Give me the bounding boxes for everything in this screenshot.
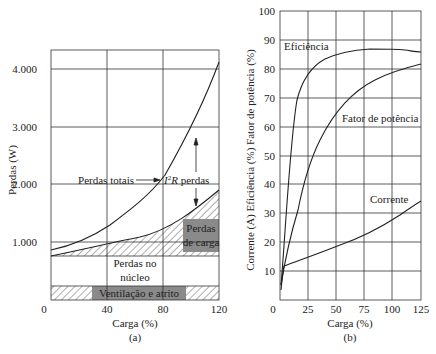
a-ylabel: Perdas (W) bbox=[6, 145, 19, 195]
core-loss-label-1: Perdas no bbox=[113, 257, 157, 269]
a-ytick-3000: 3.000 bbox=[12, 121, 37, 133]
a-xtick-80: 80 bbox=[158, 303, 170, 315]
b-ytick-70: 70 bbox=[264, 92, 276, 104]
total-loss-label: Perdas totais bbox=[78, 174, 134, 186]
a-ytick-4000: 4.000 bbox=[12, 63, 37, 75]
current-curve bbox=[281, 201, 421, 290]
b-ytick-80: 80 bbox=[264, 63, 276, 75]
b-ylabel: Corrente (A) Eficiência (%) Fator de pot… bbox=[244, 49, 257, 271]
current-label: Corrente bbox=[370, 193, 409, 205]
b-panel-label: (b) bbox=[344, 331, 357, 344]
b-ytick-20: 20 bbox=[264, 236, 276, 248]
b-xtick-100: 100 bbox=[384, 303, 401, 315]
i2r-suffix: perdas bbox=[178, 174, 209, 186]
core-loss-label-2: núcleo bbox=[120, 271, 150, 283]
a-xtick-0: 0 bbox=[41, 303, 47, 315]
power-factor-curve bbox=[281, 64, 421, 285]
load-loss-label-1: Perdas bbox=[186, 222, 215, 234]
b-ytick-50: 50 bbox=[264, 150, 276, 162]
b-xtick-25: 25 bbox=[303, 303, 315, 315]
b-xlabel: Carga (%) bbox=[327, 317, 373, 330]
efficiency-curve bbox=[281, 49, 421, 285]
b-ytick-60: 60 bbox=[264, 121, 276, 133]
a-ytick-1000: 1.000 bbox=[12, 236, 37, 248]
chart-b: 100 90 80 70 60 50 40 30 20 10 0 25 50 7… bbox=[244, 5, 430, 344]
a-xtick-120: 120 bbox=[211, 303, 228, 315]
b-ytick-90: 90 bbox=[264, 34, 276, 46]
b-xtick-75: 75 bbox=[359, 303, 371, 315]
b-xtick-125: 125 bbox=[413, 303, 430, 315]
b-xtick-0: 0 bbox=[270, 303, 276, 315]
a-xlabel: Carga (%) bbox=[112, 317, 158, 330]
b-ytick-10: 10 bbox=[264, 265, 276, 277]
b-ytick-40: 40 bbox=[264, 178, 276, 190]
b-ytick-100: 100 bbox=[259, 5, 276, 17]
b-ytick-30: 30 bbox=[264, 207, 276, 219]
b-xtick-50: 50 bbox=[331, 303, 343, 315]
a-xtick-40: 40 bbox=[102, 303, 114, 315]
chart-a: 4.000 3.000 2.000 1.000 0 40 80 120 Carg… bbox=[6, 50, 228, 344]
figure: 4.000 3.000 2.000 1.000 0 40 80 120 Carg… bbox=[0, 0, 436, 354]
grid-b bbox=[280, 11, 421, 300]
efficiency-label: Eficiência bbox=[284, 40, 329, 52]
load-loss-label-2: de carga bbox=[183, 236, 220, 248]
a-panel-label: (a) bbox=[129, 331, 142, 344]
power-factor-label: Fator de potência bbox=[342, 112, 418, 124]
friction-label: Ventilação e atrito bbox=[99, 287, 180, 299]
